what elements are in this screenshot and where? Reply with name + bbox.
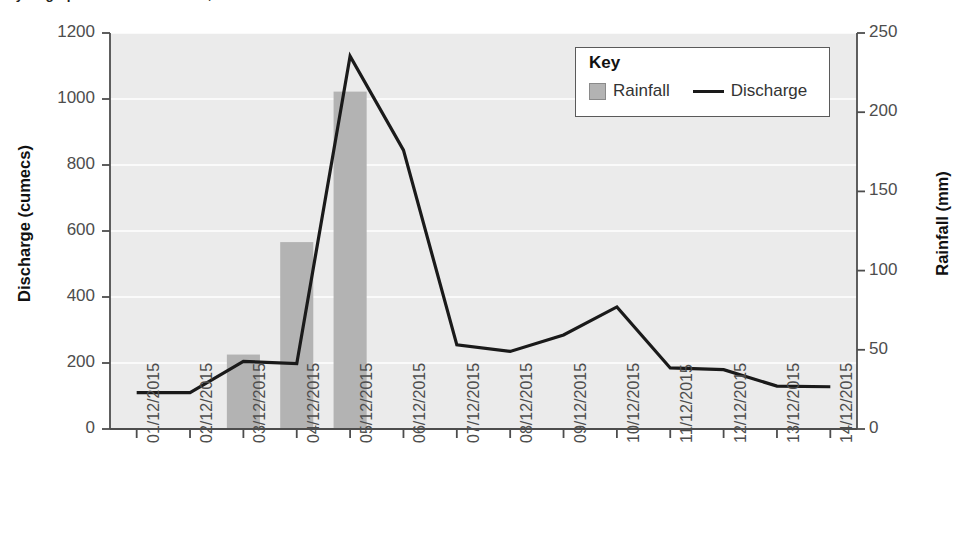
x-tick-label: 11/12/2015: [678, 364, 696, 443]
y-tick-label-right: 200: [869, 101, 897, 121]
y-tick-label-right: 100: [869, 260, 897, 280]
y-tick-label-right: 150: [869, 180, 897, 200]
discharge-swatch-icon: [693, 90, 724, 93]
rainfall-swatch-icon: [589, 83, 606, 100]
x-tick-label: 12/12/2015: [732, 363, 750, 443]
x-tick-label: 03/12/2015: [251, 363, 269, 443]
x-tick-label: 09/12/2015: [572, 363, 590, 443]
x-tick-label: 04/12/2015: [305, 363, 323, 443]
y-tick-label-left: 400: [67, 286, 95, 306]
y-tick-label-left: 600: [67, 220, 95, 240]
x-tick-label: 08/12/2015: [518, 363, 536, 443]
x-tick-label: 10/12/2015: [625, 363, 643, 443]
y-tick-label-left: 200: [67, 352, 95, 372]
y-tick-label-left: 800: [67, 154, 95, 174]
y-tick-label-right: 0: [869, 418, 878, 438]
y-tick-label-left: 1000: [57, 88, 95, 108]
y-axis-left-labels: 020040060080010001200: [20, 0, 95, 560]
y-tick-label-left: 0: [86, 418, 95, 438]
y-tick-label-right: 50: [869, 339, 888, 359]
x-tick-label: 13/12/2015: [785, 363, 803, 443]
y-axis-right-labels: 050100150200250: [869, 0, 949, 560]
x-tick-label: 07/12/2015: [465, 363, 483, 443]
y-tick-label-left: 1200: [57, 22, 95, 42]
hydrograph-chart: Hydrograph for the River Greta, Keswick …: [0, 0, 953, 560]
y-tick-label-right: 250: [869, 22, 897, 42]
x-tick-label: 14/12/2015: [838, 363, 856, 443]
legend-label-rainfall: Rainfall: [613, 81, 670, 101]
legend-title: Key: [589, 53, 620, 73]
x-tick-label: 06/12/2015: [411, 363, 429, 443]
x-tick-label: 05/12/2015: [358, 363, 376, 443]
legend-label-discharge: Discharge: [731, 81, 808, 101]
legend-entries: Rainfall Discharge: [589, 81, 807, 101]
x-tick-label: 02/12/2015: [198, 363, 216, 443]
x-tick-label: 01/12/2015: [145, 363, 163, 443]
legend: Key Rainfall Discharge: [575, 47, 830, 117]
